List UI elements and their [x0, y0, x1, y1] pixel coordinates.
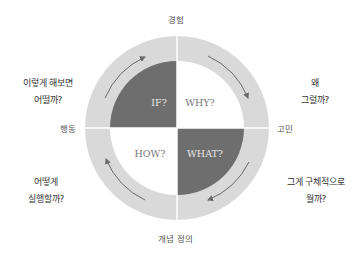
question-line: 어떨까? — [12, 92, 84, 109]
axis-label-bottom: 개념 정의 — [158, 232, 193, 244]
quadrant-label-if: IF? — [151, 97, 166, 108]
question-bottom-left: 어떻게 실행할까? — [16, 174, 76, 208]
learning-cycle-diagram: IF? WHY? WHAT? HOW? 경험 개념 정의 행동 고민 이렇게 해… — [0, 0, 361, 257]
axis-label-top: 경험 — [168, 13, 184, 25]
axis-label-left: 행동 — [60, 122, 76, 134]
axis-label-right: 고민 — [277, 122, 293, 134]
question-line: 실행할까? — [16, 191, 76, 208]
question-line: 왜 — [290, 75, 340, 92]
question-top-left: 이렇게 해보면 어떨까? — [12, 75, 84, 109]
question-line: 어떻게 — [16, 174, 76, 191]
quadrant-label-what: WHAT? — [187, 148, 223, 159]
question-top-right: 왜 그럴까? — [290, 75, 340, 109]
question-bottom-right: 그게 구체적으로 뭘까? — [276, 174, 356, 208]
question-line: 그럴까? — [290, 92, 340, 109]
quadrant-label-how: HOW? — [135, 148, 166, 159]
question-line: 그게 구체적으로 — [276, 174, 356, 191]
quadrant-label-why: WHY? — [185, 97, 214, 108]
question-line: 뭘까? — [276, 191, 356, 208]
question-line: 이렇게 해보면 — [12, 75, 84, 92]
cycle-graphic: IF? WHY? WHAT? HOW? — [0, 0, 361, 257]
